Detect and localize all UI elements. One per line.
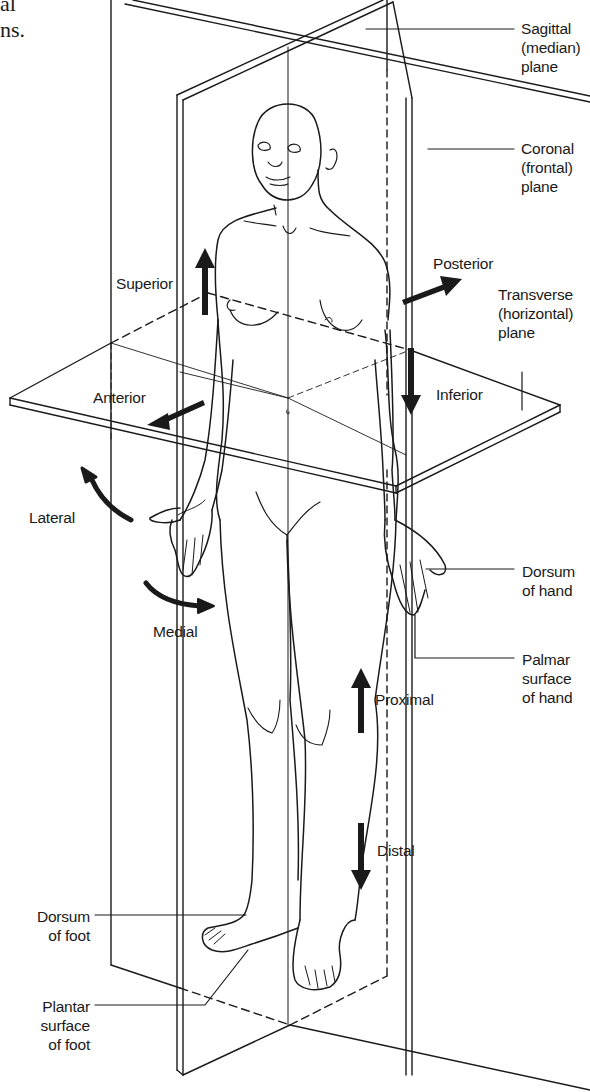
superior-arrow: [195, 248, 215, 315]
posterior-label: Posterior: [433, 254, 493, 273]
plantar-foot-line-1: Plantar: [22, 997, 90, 1016]
sagittal-label-line-3: plane: [521, 57, 581, 76]
plantar-foot-line-3: of foot: [22, 1035, 90, 1054]
distal-label: Distal: [377, 841, 415, 860]
dorsum-hand-line-2: of hand: [522, 581, 575, 600]
sagittal-label-line-1: Sagittal: [521, 19, 581, 38]
palmar-surface-of-hand-label: Palmar surface of hand: [522, 650, 572, 707]
transverse-label-line-2: (horizontal): [498, 304, 573, 323]
transverse-plane-label: Transverse (horizontal) plane: [498, 285, 573, 342]
inferior-label: Inferior: [436, 385, 483, 404]
sagittal-plane-label: Sagittal (median) plane: [521, 19, 581, 76]
medial-label: Medial: [153, 622, 197, 641]
anatomy-diagram: al ns.: [0, 0, 590, 1092]
sagittal-label-line-2: (median): [521, 38, 581, 57]
dorsum-of-foot-label: Dorsum of foot: [22, 907, 90, 945]
plantar-foot-line-2: surface: [22, 1016, 90, 1035]
anterior-label: Anterior: [93, 388, 146, 407]
coronal-label-line-3: plane: [521, 177, 574, 196]
palmar-hand-line-3: of hand: [522, 688, 572, 707]
proximal-label: Proximal: [375, 690, 434, 709]
transverse-label-line-1: Transverse: [498, 285, 573, 304]
plantar-surface-of-foot-label: Plantar surface of foot: [22, 997, 90, 1054]
medial-arrowhead: [198, 599, 214, 613]
coronal-label-line-1: Coronal: [521, 139, 574, 158]
coronal-plane-label: Coronal (frontal) plane: [521, 139, 574, 196]
lateral-label: Lateral: [29, 508, 75, 527]
dorsum-hand-line-1: Dorsum: [522, 562, 575, 581]
inferior-arrow: [401, 348, 421, 415]
medial-arrow: [146, 583, 200, 606]
superior-label: Superior: [116, 274, 173, 293]
rotation-arrows: [82, 468, 214, 613]
posterior-arrow: [402, 276, 462, 305]
anterior-arrow: [147, 400, 205, 430]
palmar-hand-line-2: surface: [522, 669, 572, 688]
leader-lines: [95, 29, 514, 1005]
transverse-label-line-3: plane: [498, 323, 573, 342]
proximal-arrow: [351, 668, 371, 733]
palmar-hand-line-1: Palmar: [522, 650, 572, 669]
coronal-label-line-2: (frontal): [521, 158, 574, 177]
dorsum-of-hand-label: Dorsum of hand: [522, 562, 575, 600]
distal-arrow: [351, 823, 371, 890]
dorsum-foot-line-2: of foot: [22, 926, 90, 945]
dorsum-foot-line-1: Dorsum: [22, 907, 90, 926]
